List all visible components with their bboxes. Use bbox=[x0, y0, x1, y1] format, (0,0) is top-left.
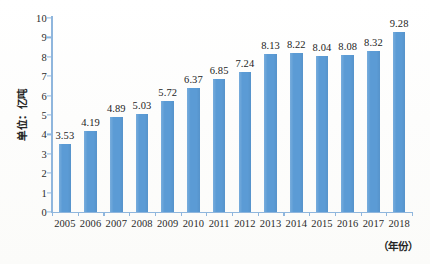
bar-value-label: 8.08 bbox=[338, 41, 357, 52]
x-tick-mark bbox=[52, 212, 53, 216]
x-tick-mark bbox=[335, 212, 336, 216]
bar-group[interactable] bbox=[110, 18, 123, 212]
x-tick-label: 2010 bbox=[183, 218, 204, 229]
bar-value-label: 8.13 bbox=[261, 40, 280, 51]
x-tick-label: 2008 bbox=[131, 218, 152, 229]
bar-value-label: 4.89 bbox=[107, 103, 126, 114]
bar[interactable] bbox=[341, 55, 354, 212]
bar[interactable] bbox=[393, 32, 406, 212]
bar-group[interactable] bbox=[84, 18, 97, 212]
bar[interactable] bbox=[316, 56, 329, 212]
bar-value-label: 5.72 bbox=[158, 87, 177, 98]
bar-group[interactable] bbox=[136, 18, 149, 212]
bar-group[interactable] bbox=[59, 18, 72, 212]
bar-group[interactable] bbox=[187, 18, 200, 212]
x-tick-mark bbox=[78, 212, 79, 216]
bar[interactable] bbox=[110, 117, 123, 212]
x-tick-label: 2017 bbox=[363, 218, 384, 229]
x-tick-label: 2014 bbox=[286, 218, 307, 229]
x-tick-mark bbox=[283, 212, 284, 216]
x-tick-mark bbox=[206, 212, 207, 216]
bar-value-label: 5.03 bbox=[133, 100, 152, 111]
bar-value-label: 6.37 bbox=[184, 74, 203, 85]
x-tick-mark bbox=[386, 212, 387, 216]
bar[interactable] bbox=[239, 72, 252, 212]
bar-group[interactable] bbox=[239, 18, 252, 212]
bar[interactable] bbox=[161, 101, 174, 212]
x-tick-mark bbox=[361, 212, 362, 216]
bar[interactable] bbox=[213, 79, 226, 212]
bar-group[interactable] bbox=[213, 18, 226, 212]
x-tick-mark bbox=[129, 212, 130, 216]
x-tick-mark bbox=[412, 212, 413, 216]
x-axis-title: （年份） bbox=[378, 238, 418, 253]
x-tick-label: 2013 bbox=[260, 218, 281, 229]
bar-value-label: 4.19 bbox=[81, 117, 100, 128]
x-tick-mark bbox=[103, 212, 104, 216]
x-tick-label: 2012 bbox=[234, 218, 255, 229]
x-tick-mark bbox=[181, 212, 182, 216]
bar-value-label: 9.28 bbox=[390, 18, 409, 29]
y-axis-ticks: 012345678910 bbox=[26, 18, 47, 212]
x-tick-mark bbox=[309, 212, 310, 216]
bar-value-label: 8.22 bbox=[287, 39, 306, 50]
bar[interactable] bbox=[290, 53, 303, 212]
x-tick-label: 2005 bbox=[54, 218, 75, 229]
x-tick-label: 2007 bbox=[106, 218, 127, 229]
bar-value-label: 3.53 bbox=[55, 130, 74, 141]
x-tick-label: 2011 bbox=[209, 218, 230, 229]
x-tick-mark bbox=[258, 212, 259, 216]
bar-value-label: 7.24 bbox=[235, 58, 254, 69]
bar-group[interactable] bbox=[161, 18, 174, 212]
bar-value-label: 6.85 bbox=[210, 65, 229, 76]
x-tick-mark bbox=[232, 212, 233, 216]
plot-area bbox=[52, 18, 412, 212]
bar[interactable] bbox=[136, 114, 149, 212]
bar-value-label: 8.04 bbox=[313, 42, 332, 53]
bar[interactable] bbox=[187, 88, 200, 212]
bar[interactable] bbox=[264, 54, 277, 212]
bar-value-label: 8.32 bbox=[364, 37, 383, 48]
x-tick-mark bbox=[155, 212, 156, 216]
bar-group[interactable] bbox=[393, 18, 406, 212]
x-tick-label: 2006 bbox=[80, 218, 101, 229]
y-tick-label: 10 bbox=[36, 13, 47, 24]
bar[interactable] bbox=[84, 131, 97, 212]
bar[interactable] bbox=[367, 51, 380, 212]
x-tick-label: 2018 bbox=[388, 218, 409, 229]
bar-chart: 单位：亿吨 012345678910 （年份） 3.5320054.192006… bbox=[0, 0, 430, 264]
x-tick-label: 2016 bbox=[337, 218, 358, 229]
bar[interactable] bbox=[59, 144, 72, 212]
x-tick-label: 2015 bbox=[311, 218, 332, 229]
x-tick-label: 2009 bbox=[157, 218, 178, 229]
